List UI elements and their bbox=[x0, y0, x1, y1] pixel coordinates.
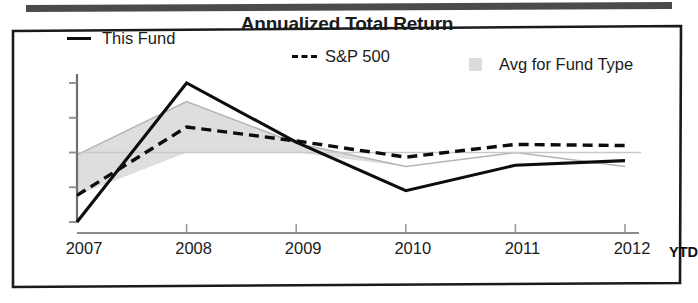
x-tick-label: 2012 bbox=[614, 239, 651, 258]
x-axis bbox=[77, 224, 639, 233]
annualized-total-return-chart: Annualized Total Return This Fund S&P 50… bbox=[9, 11, 685, 294]
x-tick-label: 2010 bbox=[394, 239, 431, 258]
x-tick-label: 2007 bbox=[66, 239, 103, 258]
x-axis-ytd-label: YTD bbox=[669, 244, 698, 260]
x-tick-label: 2008 bbox=[175, 239, 212, 258]
x-tick-label: 2009 bbox=[285, 239, 322, 258]
plot-area bbox=[9, 11, 685, 294]
y-axis bbox=[69, 74, 77, 223]
x-tick-label: 2011 bbox=[505, 239, 540, 258]
